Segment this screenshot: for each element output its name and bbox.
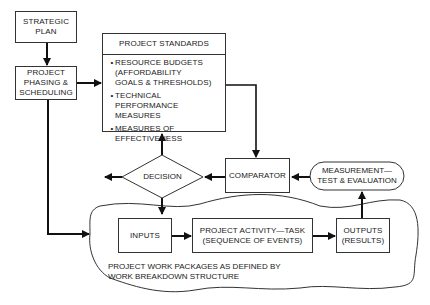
strategic-plan-box: STRATEGIC PLAN [15, 11, 77, 43]
standards-item-text: RESOURCE BUDGETS (AFFORDABILITY GOALS & … [115, 58, 211, 88]
phasing-label: PROJECT PHASING & SCHEDULING [19, 68, 72, 98]
comparator-label: COMPARATOR [229, 171, 286, 181]
comparator-box: COMPARATOR [225, 158, 290, 193]
standards-item: • RESOURCE BUDGETS (AFFORDABILITY GOALS … [109, 58, 221, 88]
edge-standards-to-comparator [226, 85, 256, 157]
activity-box: PROJECT ACTIVITY—TASK (SEQUENCE OF EVENT… [192, 218, 313, 253]
inputs-label: INPUTS [130, 231, 160, 241]
activity-label: PROJECT ACTIVITY—TASK (SEQUENCE OF EVENT… [200, 226, 305, 246]
outputs-label: OUTPUTS (RESULTS) [342, 226, 385, 246]
inputs-box: INPUTS [118, 218, 172, 253]
standards-box: PROJECT STANDARDS • RESOURCE BUDGETS (AF… [102, 33, 226, 132]
decision-label: DECISION [122, 172, 203, 182]
standards-list: • RESOURCE BUDGETS (AFFORDABILITY GOALS … [109, 58, 221, 147]
standards-item-text: TECHNICAL PERFORMANCE MEASURES [115, 91, 221, 121]
phasing-box: PROJECT PHASING & SCHEDULING [15, 66, 77, 100]
measurement-label: MEASUREMENT— TEST & EVALUATION [310, 166, 404, 186]
standards-item: • TECHNICAL PERFORMANCE MEASURES [109, 91, 221, 121]
standards-item: • MEASURES OF EFFECTIVENESS [109, 124, 221, 144]
edge-phasing-to-workpackages [48, 100, 89, 234]
standards-title: PROJECT STANDARDS [103, 34, 225, 55]
standards-item-text: MEASURES OF EFFECTIVENESS [115, 124, 182, 144]
strategic-plan-label: STRATEGIC PLAN [23, 17, 69, 37]
work-packages-label: PROJECT WORK PACKAGES AS DEFINED BY WORK… [108, 262, 308, 282]
outputs-box: OUTPUTS (RESULTS) [336, 218, 390, 253]
